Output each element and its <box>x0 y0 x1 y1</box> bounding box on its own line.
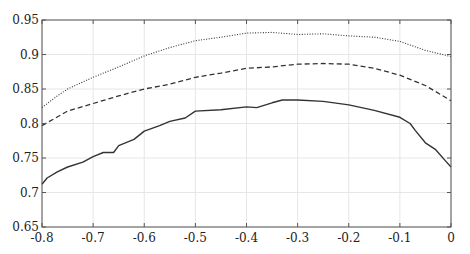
x-tick-label: -0.1 <box>388 231 411 245</box>
y-tick-label: 0.8 <box>20 117 39 131</box>
y-tick-label: 0.7 <box>20 186 39 200</box>
x-tick-label: -0.2 <box>337 231 360 245</box>
grid-lines <box>42 20 451 227</box>
x-axis-tick-labels: -0.8-0.7-0.6-0.5-0.4-0.3-0.2-0.10 <box>30 231 454 245</box>
x-tick-label: -0.6 <box>133 231 156 245</box>
y-tick-label: 0.9 <box>20 48 39 62</box>
y-tick-label: 0.75 <box>12 151 39 165</box>
y-tick-label: 0.85 <box>12 82 39 96</box>
y-axis-tick-labels: 0.650.70.750.80.850.90.95 <box>12 13 39 234</box>
x-tick-label: -0.3 <box>286 231 309 245</box>
y-tick-label: 0.65 <box>12 220 39 234</box>
x-tick-label: 0 <box>447 231 455 245</box>
x-tick-label: -0.4 <box>235 231 259 245</box>
line-chart: -0.8-0.7-0.6-0.5-0.4-0.3-0.2-0.10 0.650.… <box>0 0 470 254</box>
y-tick-label: 0.95 <box>12 13 39 27</box>
x-tick-label: -0.7 <box>82 231 105 245</box>
x-tick-label: -0.5 <box>184 231 207 245</box>
